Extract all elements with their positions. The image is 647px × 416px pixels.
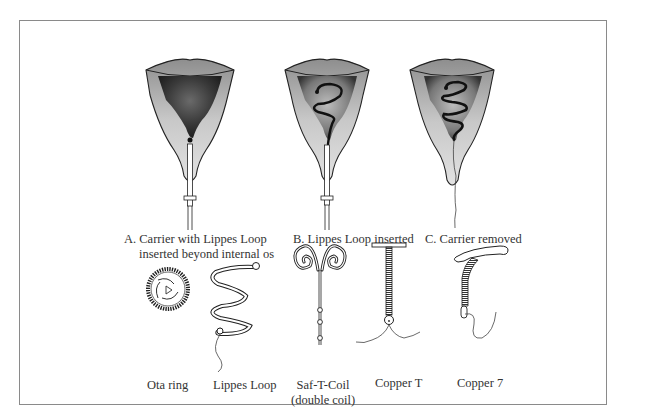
lippes-loop-device <box>212 263 259 373</box>
saf-t-coil-caption: Saf-T-Coil (double coil) <box>291 378 355 408</box>
saf-t-coil-caption-subtitle: (double coil) <box>291 393 355 408</box>
lippes-loop-caption: Lippes Loop <box>213 378 277 393</box>
panel-b-caption: B. Lippes Loop inserted <box>293 232 414 247</box>
panel-a-caption-line1: A. Carrier with Lippes Loop <box>124 232 267 246</box>
uterus-panel-b <box>285 59 369 230</box>
uterus-panel-a <box>146 59 234 230</box>
copper-7-device <box>454 246 508 338</box>
ota-ring-caption: Ota ring <box>147 378 188 393</box>
ota-ring-device <box>148 269 188 309</box>
saf-t-coil-caption-name: Saf-T-Coil <box>291 378 355 393</box>
panel-c-caption: C. Carrier removed <box>425 232 522 247</box>
saf-t-coil-device <box>295 246 345 345</box>
panel-a-caption: A. Carrier with Lippes Loop inserted bey… <box>124 232 274 262</box>
iud-illustration <box>0 0 647 416</box>
panel-a-caption-line2: inserted beyond internal os <box>124 247 274 262</box>
copper-7-caption: Copper 7 <box>457 376 503 391</box>
uterus-panel-c <box>410 59 494 228</box>
copper-t-device <box>356 243 420 343</box>
copper-t-caption: Copper T <box>375 376 422 391</box>
